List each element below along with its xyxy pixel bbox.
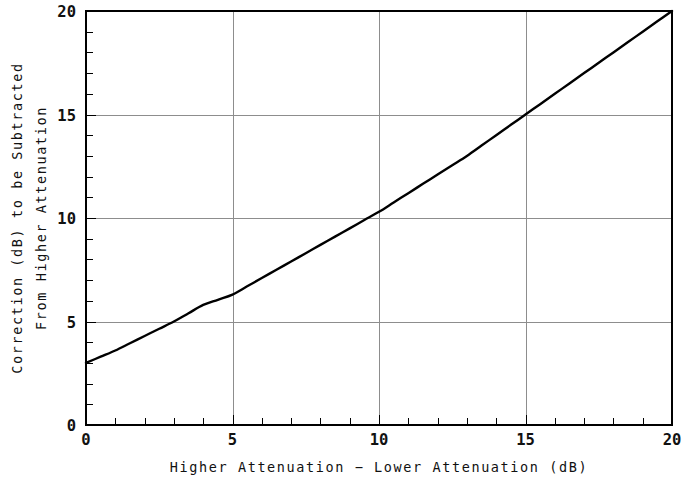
x-tick-label: 20 [663, 431, 682, 449]
x-axis-title: Higher Attenuation − Lower Attenuation (… [170, 459, 588, 475]
attenuation-correction-chart: 05101520 05101520 Higher Attenuation − L… [0, 0, 686, 484]
chart-figure: 05101520 05101520 Higher Attenuation − L… [0, 0, 686, 484]
x-tick-label: 10 [370, 431, 389, 449]
y-tick-label: 15 [57, 107, 76, 125]
y-axis-title-line1: Correction (dB) to be Subtracted [9, 62, 25, 373]
y-tick-label: 20 [57, 3, 76, 21]
y-tick-label: 10 [57, 210, 76, 228]
y-tick-label: 5 [67, 314, 76, 332]
x-tick-label: 5 [228, 431, 237, 449]
x-tick-label: 0 [81, 431, 90, 449]
x-tick-label: 15 [516, 431, 535, 449]
y-tick-label: 0 [67, 417, 76, 435]
y-axis-title-line2: From Higher Attenuation [33, 106, 49, 330]
